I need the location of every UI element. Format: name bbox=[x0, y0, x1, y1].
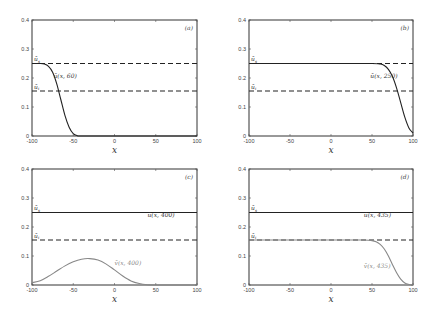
y-tick-label: 0.4 bbox=[238, 166, 246, 172]
us-label: ūs bbox=[251, 55, 257, 64]
us-label: ūs bbox=[34, 55, 40, 64]
curve-label: ū(x, 60) bbox=[53, 72, 77, 79]
curve-label: ū(x, 400) bbox=[148, 211, 176, 218]
chart-panel-d: -100-5005010000.10.20.30.4x(d)ūsūiū(x, 4… bbox=[238, 166, 417, 304]
x-tick-label: -50 bbox=[286, 287, 294, 293]
y-tick-label: 0.4 bbox=[238, 17, 246, 23]
y-tick-label: 0.3 bbox=[21, 195, 29, 201]
y-tick-label: 0 bbox=[243, 282, 246, 288]
ui-label: ūi bbox=[251, 232, 257, 241]
x-axis-label: x bbox=[328, 145, 333, 155]
x-tick-label: -50 bbox=[69, 287, 77, 293]
ui-label: ūi bbox=[34, 232, 40, 241]
y-tick-label: 0.1 bbox=[21, 104, 29, 110]
x-tick-label: 0 bbox=[329, 138, 332, 144]
panel-label: (a) bbox=[185, 24, 194, 31]
x-tick-label: -50 bbox=[286, 138, 294, 144]
y-tick-label: 0.4 bbox=[21, 17, 29, 23]
x-tick-label: 0 bbox=[113, 287, 116, 293]
ui-label: ūi bbox=[251, 83, 257, 92]
y-tick-label: 0.2 bbox=[238, 75, 246, 81]
curve-label: ū(x, 435) bbox=[364, 211, 392, 218]
x-tick-label: 50 bbox=[153, 138, 159, 144]
x-tick-label: 100 bbox=[192, 287, 201, 293]
x-tick-label: 0 bbox=[329, 287, 332, 293]
y-tick-label: 0.4 bbox=[21, 166, 29, 172]
curve-label: v̄(x, 435) bbox=[364, 262, 391, 269]
x-tick-label: 50 bbox=[369, 138, 375, 144]
figure: -100-5005010000.10.20.30.4x(a)ūsūiū(x, 6… bbox=[0, 0, 437, 315]
panel-label: (d) bbox=[400, 173, 409, 180]
x-tick-label: 100 bbox=[192, 138, 201, 144]
y-tick-label: 0.2 bbox=[21, 224, 29, 230]
chart-panel-b: -100-5005010000.10.20.30.4x(b)ūsūiū(x, 2… bbox=[238, 17, 417, 155]
y-tick-label: 0.1 bbox=[238, 104, 246, 110]
panel-label: (c) bbox=[185, 173, 194, 180]
us-label: ūs bbox=[34, 204, 40, 213]
curve-label: v̄(x, 400) bbox=[115, 259, 142, 266]
chart-panel-c: -100-5005010000.10.20.30.4x(c)ūsūiū(x, 4… bbox=[21, 166, 201, 304]
ui-label: ūi bbox=[34, 83, 40, 92]
chart-panel-a: -100-5005010000.10.20.30.4x(a)ūsūiū(x, 6… bbox=[21, 17, 201, 155]
y-tick-label: 0.3 bbox=[238, 195, 246, 201]
y-tick-label: 0.2 bbox=[21, 75, 29, 81]
x-tick-label: 100 bbox=[408, 287, 417, 293]
x-axis-label: x bbox=[328, 294, 333, 304]
us-label: ūs bbox=[251, 204, 257, 213]
plot-frame bbox=[32, 169, 197, 285]
y-tick-label: 0.1 bbox=[21, 253, 29, 259]
x-axis-label: x bbox=[112, 294, 117, 304]
x-tick-label: 50 bbox=[369, 287, 375, 293]
x-tick-label: -50 bbox=[69, 138, 77, 144]
curve-label: ū(x, 250) bbox=[370, 72, 398, 79]
y-tick-label: 0.2 bbox=[238, 224, 246, 230]
x-tick-label: 100 bbox=[408, 138, 417, 144]
x-axis-label: x bbox=[112, 145, 117, 155]
y-tick-label: 0 bbox=[243, 133, 246, 139]
panel-label: (b) bbox=[400, 24, 409, 31]
y-tick-label: 0.3 bbox=[238, 46, 246, 52]
y-tick-label: 0 bbox=[26, 133, 29, 139]
y-tick-label: 0.3 bbox=[21, 46, 29, 52]
x-tick-label: 0 bbox=[113, 138, 116, 144]
x-tick-label: 50 bbox=[153, 287, 159, 293]
y-tick-label: 0 bbox=[26, 282, 29, 288]
y-tick-label: 0.1 bbox=[238, 253, 246, 259]
